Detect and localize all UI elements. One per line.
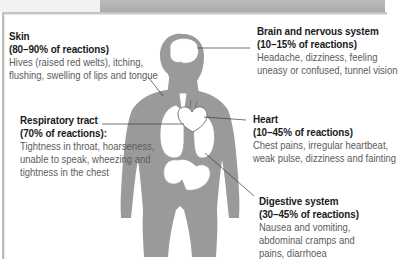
callout-desc-line: unable to speak, wheezing and <box>20 153 154 166</box>
callout-skin: Skin (80–90% of reactions) Hives (raised… <box>9 30 182 82</box>
callout-heart: Heart (10–45% of reactions) Chest pains,… <box>253 113 402 165</box>
callout-stat: (70% of reactions): <box>20 127 154 140</box>
callout-title: Brain and nervous system <box>257 25 397 38</box>
callout-stat: (10–15% of reactions) <box>257 38 397 51</box>
callout-respiratory: Respiratory tract (70% of reactions): Ti… <box>20 114 176 179</box>
callout-title: Respiratory tract <box>20 114 154 127</box>
callout-desc-line: tightness in the chest <box>20 166 154 179</box>
callout-desc-line: flushing, swelling of lips and tongue <box>9 69 158 82</box>
callout-title: Heart <box>253 113 396 126</box>
callout-digestive: Digestive system (30–45% of reactions) N… <box>259 195 375 260</box>
callout-desc-line: abdominal cramps and <box>259 234 359 247</box>
callout-desc-line: Tightness in throat, hoarseness, <box>20 140 154 153</box>
callout-desc-line: Headache, dizziness, feeling <box>257 51 397 64</box>
callout-title: Skin <box>9 30 158 43</box>
callout-desc-line: Nausea and vomiting, <box>259 221 359 234</box>
callout-desc-line: uneasy or confused, tunnel vision <box>257 64 397 77</box>
callout-desc-line: pains, diarrhoea <box>259 247 359 260</box>
callout-desc-line: Hives (raised red welts), itching, <box>9 56 158 69</box>
callout-stat: (80–90% of reactions) <box>9 43 158 56</box>
callout-brain: Brain and nervous system (10–15% of reac… <box>257 25 402 77</box>
callout-desc-line: weak pulse, dizziness and fainting <box>253 152 396 165</box>
callout-desc-line: Chest pains, irregular heartbeat, <box>253 139 396 152</box>
callout-stat: (30–45% of reactions) <box>259 208 359 221</box>
callout-stat: (10–45% of reactions) <box>253 126 396 139</box>
callout-title: Digestive system <box>259 195 359 208</box>
